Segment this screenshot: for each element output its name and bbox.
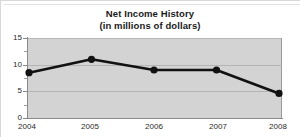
series-line (29, 59, 279, 93)
y-axis-label-0: 0 (2, 114, 22, 122)
y-axis-label-10: 10 (2, 61, 22, 69)
x-axis-line (27, 118, 283, 119)
net-income-series (27, 38, 282, 118)
data-point-2007 (213, 66, 220, 73)
x-axis-label-2005: 2005 (70, 122, 110, 131)
y-axis-label-15: 15 (2, 34, 22, 42)
data-point-2006 (150, 66, 157, 73)
x-axis-label-2004: 2004 (7, 122, 47, 131)
y-axis-label-5: 5 (2, 87, 22, 95)
x-axis-label-2008: 2008 (258, 122, 298, 131)
series-markers (25, 56, 282, 97)
data-point-2005 (88, 56, 95, 63)
data-point-2008 (275, 90, 282, 97)
y-tick-0 (23, 118, 27, 119)
net-income-history-chart: Net Income History (in millions of dolla… (0, 0, 300, 137)
data-point-2004 (25, 69, 32, 76)
chart-subtitle: (in millions of dollars) (0, 20, 300, 32)
chart-title: Net Income History (0, 8, 300, 20)
chart-title-block: Net Income History (in millions of dolla… (0, 8, 300, 31)
x-axis-label-2007: 2007 (198, 122, 238, 131)
x-axis-label-2006: 2006 (134, 122, 174, 131)
